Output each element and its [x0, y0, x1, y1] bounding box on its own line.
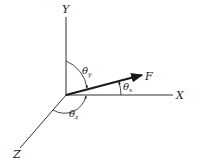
z-axis-label: Z [12, 148, 21, 161]
theta-z-label: θz [69, 108, 79, 120]
x-axis-label: X [175, 89, 185, 102]
theta-x-label: θx [123, 81, 133, 93]
force-label: F [144, 70, 153, 83]
z-axis [20, 95, 66, 148]
theta-x-arc [119, 82, 121, 95]
direction-angles-diagram: Y X Z F θy θx θz [0, 0, 201, 163]
y-axis-label: Y [62, 3, 71, 16]
